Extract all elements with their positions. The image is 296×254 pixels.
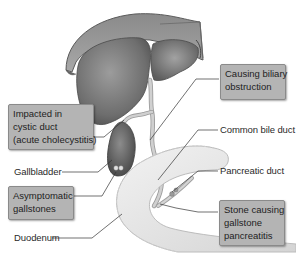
callout-text: Causing biliary: [225, 67, 281, 80]
callout-text: cystic duct: [13, 120, 89, 133]
callout-text: Stone causing: [224, 203, 280, 216]
callout-impacted-cystic-duct: Impacted in cystic duct (acute cholecyst…: [8, 104, 94, 150]
callout-text: gallstones: [13, 202, 69, 215]
callout-text: obstruction: [225, 80, 281, 93]
label-duodenum: Duodenum: [14, 232, 60, 244]
label-pancreatic-duct: Pancreatic duct: [220, 165, 284, 177]
callout-asymptomatic-gallstones: Asymptomatic gallstones: [8, 186, 74, 220]
label-common-bile-duct: Common bile duct: [220, 124, 295, 136]
callout-text: Impacted in: [13, 107, 89, 120]
callout-gallstone-pancreatitis: Stone causing gallstone pancreatitis: [219, 200, 285, 246]
callout-text: pancreatitis: [224, 229, 280, 242]
callout-text: (acute cholecystitis): [13, 133, 89, 146]
label-gallbladder: Gallbladder: [14, 166, 62, 178]
callout-text: Asymptomatic: [13, 189, 69, 202]
callout-biliary-obstruction: Causing biliary obstruction: [220, 64, 286, 100]
callout-text: gallstone: [224, 216, 280, 229]
